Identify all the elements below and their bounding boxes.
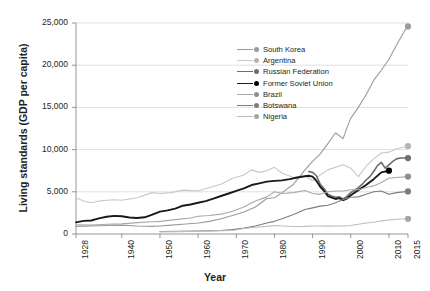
series-line-botswana [160,191,408,232]
x-axis-title: Year [0,271,430,283]
legend-dot-marker [254,81,259,86]
legend-item-nigeria[interactable]: Nigeria [237,112,287,121]
legend-item-botswana[interactable]: Botswana [237,101,296,110]
x-tick-label: 1980 [278,240,288,274]
legend-item-brazil[interactable]: Brazil [237,90,282,99]
legend-line-swatch [237,94,253,95]
endpoint-marker-brazil [405,174,411,180]
y-tick-label: 10,000 [24,144,68,154]
legend-label: Brazil [263,90,282,99]
x-tick-label: 2000 [355,240,365,274]
x-tick-label: 1990 [317,240,327,274]
legend-dot-marker [254,92,259,97]
x-tick-label: 1928 [80,240,90,274]
x-tick-label: 1950 [164,240,174,274]
x-tick-label: 1960 [202,240,212,274]
legend-line-swatch [237,60,253,61]
chart-container: Living standards (GDP per capita) Year 0… [0,0,430,291]
legend-label: Russian Federation [263,67,329,76]
endpoint-marker-nigeria [405,216,411,222]
legend-item-former-soviet-union[interactable]: Former Soviet Union [237,79,333,88]
y-tick-label: 20,000 [24,59,68,69]
series-line-argentina [76,146,408,203]
legend-dot-marker [254,47,259,52]
legend-label: Former Soviet Union [263,79,333,88]
endpoint-marker-argentina [405,143,411,149]
x-tick-label: 1940 [126,240,136,274]
legend-dot-marker [254,58,259,63]
endpoint-marker-former-soviet-union [386,168,392,174]
y-tick-label: 0 [24,228,68,238]
y-tick-label: 25,000 [24,17,68,27]
legend-label: South Korea [263,45,305,54]
legend-line-swatch [237,49,253,50]
x-tick-label: 1970 [240,240,250,274]
legend-line-swatch [237,105,253,106]
legend-label: Botswana [263,101,296,110]
x-tick-label: 2015 [412,240,422,274]
legend-dot-marker [254,103,259,108]
legend-line-swatch [237,83,253,84]
y-tick-label: 15,000 [24,101,68,111]
legend-item-russian-federation[interactable]: Russian Federation [237,67,329,76]
endpoint-marker-botswana [405,188,411,194]
endpoint-marker-south-korea [405,23,411,29]
legend-label: Argentina [263,56,296,65]
endpoint-marker-russian-federation [405,155,411,161]
legend-line-swatch [237,71,253,72]
legend-dot-marker [254,69,259,74]
y-tick-label: 5,000 [24,186,68,196]
legend-label: Nigeria [263,112,287,121]
series-line-nigeria [160,219,408,232]
x-tick-label: 2010 [393,240,403,274]
legend-line-swatch [237,116,253,117]
legend-item-south-korea[interactable]: South Korea [237,45,305,54]
legend-dot-marker [254,114,259,119]
legend-item-argentina[interactable]: Argentina [237,56,296,65]
